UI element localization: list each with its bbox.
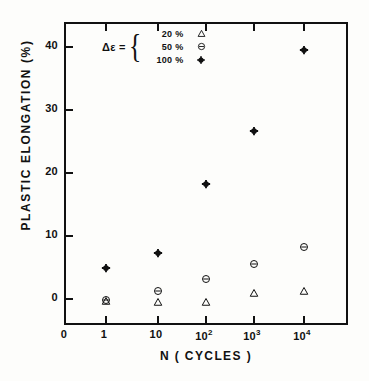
- data-point-marker: [201, 274, 211, 284]
- y-tick-label: 0: [52, 291, 58, 303]
- x-axis-tick-top: [303, 24, 305, 31]
- legend-unit-label: %: [175, 42, 189, 52]
- data-point-marker: [153, 286, 163, 296]
- y-axis-tick: [66, 235, 73, 237]
- legend-unit-label: %: [175, 29, 189, 39]
- x-tick-label: 0: [61, 328, 67, 340]
- y-axis-tick: [66, 46, 73, 48]
- legend-value-label: 50: [145, 42, 172, 52]
- figure-container: PLASTIC ELONGATION (%) 010203040 Δε = { …: [0, 0, 369, 381]
- y-axis-tick: [66, 109, 73, 111]
- data-point-marker: [101, 263, 112, 274]
- x-axis-tick: [205, 316, 207, 323]
- legend-unit-label: %: [175, 55, 189, 65]
- legend-value-label: 20: [145, 29, 172, 39]
- data-point-marker: [201, 297, 211, 307]
- data-point-marker: [249, 259, 259, 269]
- data-point-marker: [249, 126, 260, 137]
- x-axis-tick: [303, 316, 305, 323]
- y-tick-label-group: 010203040: [30, 22, 58, 325]
- x-axis-tick: [157, 316, 159, 323]
- open-triangle-marker: [195, 29, 207, 38]
- x-axis-title: N ( CYCLES ): [64, 349, 348, 363]
- legend-value-label: 100: [145, 55, 172, 65]
- x-axis-tick: [253, 316, 255, 323]
- y-tick-label: 10: [45, 228, 58, 240]
- legend-row: 100%: [145, 53, 207, 66]
- y-axis-tick: [66, 172, 73, 174]
- plot-area: Δε = { 20%50%100%: [64, 22, 348, 325]
- x-tick-label: 1: [101, 328, 107, 340]
- circle-cross-marker: [195, 55, 207, 65]
- data-point-marker: [299, 286, 309, 296]
- data-point-marker: [249, 288, 259, 298]
- data-point-marker: [101, 295, 111, 305]
- data-point-marker: [299, 242, 309, 252]
- circle-dash-marker: [195, 42, 207, 51]
- legend-row: 20%: [145, 27, 207, 40]
- legend-row: 50%: [145, 40, 207, 53]
- y-tick-label: 30: [45, 102, 58, 114]
- x-tick-label: 104: [293, 328, 311, 342]
- legend-equation-label: Δε =: [102, 41, 126, 53]
- data-point-marker: [299, 45, 310, 56]
- legend-brace-icon: {: [129, 29, 141, 63]
- x-tick-label: 103: [243, 328, 261, 342]
- y-axis-tick: [66, 298, 73, 300]
- y-tick-label: 40: [45, 39, 58, 51]
- x-tick-label-group: 0110102103104: [0, 328, 369, 348]
- legend-row-group: 20%50%100%: [145, 27, 207, 66]
- y-tick-label: 20: [45, 165, 58, 177]
- x-tick-label: 10: [150, 328, 163, 340]
- x-axis-tick-top: [253, 24, 255, 31]
- data-point-marker: [153, 297, 163, 307]
- x-tick-label: 102: [195, 328, 213, 342]
- x-axis-tick: [105, 316, 107, 323]
- data-point-marker: [153, 248, 164, 259]
- legend: Δε = { 20%50%100%: [102, 27, 207, 66]
- data-point-marker: [201, 178, 212, 189]
